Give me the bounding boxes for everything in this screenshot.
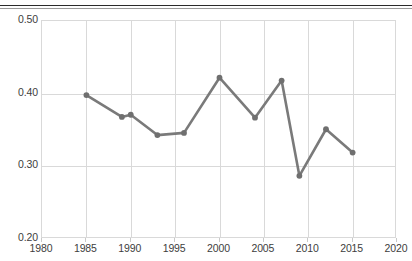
x-tick-label-2010: 2010: [287, 243, 327, 254]
y-tick-label-0.30: 0.30: [2, 159, 38, 170]
x-tick-label-2015: 2015: [332, 243, 372, 254]
y-tick-label-0.50: 0.50: [2, 14, 38, 25]
data-point-1989: [119, 114, 125, 120]
x-tick-label-2020: 2020: [376, 243, 412, 254]
data-point-2015: [350, 150, 356, 156]
data-point-1990: [128, 112, 134, 118]
data-point-1985: [83, 92, 89, 98]
data-point-2009: [296, 173, 302, 179]
data-point-2000: [217, 75, 223, 81]
data-point-2007: [279, 78, 285, 84]
data-series-line: [42, 21, 397, 239]
data-point-2012: [323, 126, 329, 132]
line-chart-figure: 0.200.300.400.50 19801985199019952000200…: [0, 0, 412, 261]
x-tick-label-2005: 2005: [243, 243, 283, 254]
x-tick-label-1985: 1985: [65, 243, 105, 254]
series-polyline: [86, 78, 352, 176]
data-point-1996: [181, 130, 187, 136]
data-point-1993: [154, 132, 160, 138]
plot-area: [41, 20, 396, 238]
x-tick-label-1995: 1995: [154, 243, 194, 254]
x-tick-label-1980: 1980: [21, 243, 61, 254]
y-tick-label-0.20: 0.20: [2, 232, 38, 243]
x-tick-label-1990: 1990: [110, 243, 150, 254]
series-markers: [83, 75, 355, 179]
y-tick-label-0.40: 0.40: [2, 87, 38, 98]
data-point-2004: [252, 115, 258, 121]
x-tick-label-2000: 2000: [199, 243, 239, 254]
